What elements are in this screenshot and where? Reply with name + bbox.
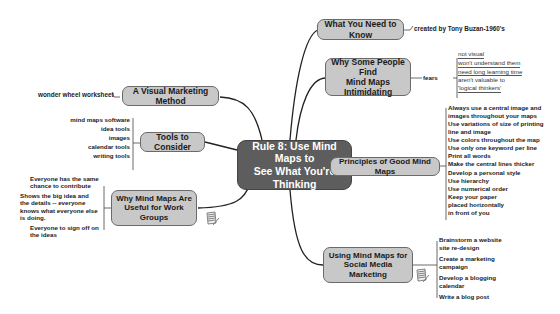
note-icon[interactable] (415, 268, 431, 284)
node-label: Principles of Good Mind Maps (331, 157, 439, 176)
leaf-calendar-tools[interactable]: calendar tools (60, 143, 130, 152)
node-label-line1: Why Some People Find (326, 57, 410, 77)
leaf-principle-1a[interactable]: Always use a central image and (448, 104, 544, 112)
leaf-sign-off-a[interactable]: Everyone to sign off on (20, 224, 99, 231)
leaf-long-learning[interactable]: need long learning time (458, 68, 522, 77)
node-label: What You Need to Know (318, 19, 403, 39)
node-label-line2: Mind Maps Intimidating (326, 77, 410, 97)
leaf-brainstorm-a[interactable]: Brainstorm a website (439, 236, 502, 244)
leaf-same-chance-b[interactable]: chance to contribute (20, 182, 99, 189)
leaf-principle-7[interactable]: Develop a personal style (448, 169, 544, 177)
note-icon[interactable] (205, 211, 221, 227)
leaf-idea-tools[interactable]: idea tools (60, 125, 130, 134)
node-why-some-people-find[interactable]: Why Some People Find Mind Maps Intimidat… (325, 58, 411, 96)
leaf-big-idea-d[interactable]: is doing. (20, 214, 99, 221)
leaf-principle-10[interactable]: Keep your paper (448, 193, 544, 201)
leaf-blogging-b[interactable]: calendar (439, 282, 502, 290)
node-label-line1: Using Mind Maps for (329, 251, 408, 261)
leaf-principle-8[interactable]: Use hierarchy (448, 177, 544, 185)
tools-leaves: mind maps software idea tools images cal… (60, 116, 130, 161)
node-social-media-marketing[interactable]: Using Mind Maps for Social Media Marketi… (323, 247, 413, 283)
node-label-line1: Why Mind Maps Are (116, 194, 192, 204)
leaf-brainstorm-b[interactable]: site re-design (439, 244, 502, 252)
leaf-principle-5[interactable]: Print all words (448, 152, 544, 160)
leaf-arent-valuable[interactable]: aren't valuable to (458, 76, 522, 84)
leaf-principle-4[interactable]: Use only one keyword per line (448, 144, 544, 152)
node-visual-marketing-method[interactable]: A Visual Marketing Method (122, 86, 219, 106)
leaf-not-visual[interactable]: not visual (458, 50, 484, 59)
leaf-principle-3[interactable]: Use colors throughout the map (448, 136, 544, 144)
leaf-principle-2b[interactable]: line and image (448, 128, 544, 136)
leaf-principle-9[interactable]: Use numerical order (448, 185, 544, 193)
leaf-principle-6[interactable]: Make the central lines thicker (448, 160, 544, 168)
connector-fears[interactable]: fears (423, 74, 438, 82)
node-work-groups[interactable]: Why Mind Maps Are Useful for Work Groups (111, 190, 197, 226)
node-what-you-need-to-know[interactable]: What You Need to Know (317, 19, 404, 40)
leaf-campaign-a[interactable]: Create a marketing (439, 255, 502, 263)
leaf-sign-off-b[interactable]: the ideas (20, 231, 99, 238)
leaf-wonder-wheel[interactable]: wonder wheel worksheet (38, 91, 114, 99)
leaf-images[interactable]: images (60, 134, 130, 143)
leaf-big-idea-c[interactable]: knows what everyone else (20, 207, 99, 214)
leaf-principle-11[interactable]: placed horizontally (448, 201, 544, 209)
leaf-big-idea-a[interactable]: Shows the big idea and (20, 192, 99, 199)
leaf-blog-post[interactable]: Write a blog post (439, 293, 502, 301)
leaf-blogging-a[interactable]: Develop a blogging (439, 274, 502, 282)
leaf-created-by[interactable]: created by Tony Buzan-1960's (414, 25, 505, 33)
leaf-mind-maps-software[interactable]: mind maps software (60, 116, 130, 125)
social-media-leaves: Brainstorm a website site re-design Crea… (439, 236, 502, 301)
node-label: A Visual Marketing Method (123, 86, 218, 106)
leaf-logical-thinkers[interactable]: 'logical thinkers' (458, 84, 501, 93)
leaf-campaign-b[interactable]: campaign (439, 263, 502, 271)
leaf-big-idea-b[interactable]: the details -- everyone (20, 199, 99, 206)
principles-leaves: Always use a central image and images th… (448, 104, 544, 217)
node-principles[interactable]: Principles of Good Mind Maps (330, 157, 440, 176)
work-groups-leaves: Everyone has the same chance to contribu… (20, 175, 99, 239)
leaf-principle-1b[interactable]: images throughout your maps (448, 112, 544, 120)
node-label: Tools to Consider (141, 132, 204, 152)
node-label-line2: Social Media Marketing (324, 260, 412, 279)
fears-leaves: not visual won't understand them need lo… (458, 50, 522, 93)
node-tools-to-consider[interactable]: Tools to Consider (140, 132, 205, 152)
leaf-writing-tools[interactable]: writing tools (60, 152, 130, 161)
leaf-principle-2a[interactable]: Use variations of size of printing (448, 120, 544, 128)
node-label-line2: Useful for Work Groups (112, 203, 196, 222)
leaf-principle-12[interactable]: in front of you (448, 209, 544, 217)
leaf-same-chance-a[interactable]: Everyone has the same (20, 175, 99, 182)
leaf-wont-understand[interactable]: won't understand them (458, 59, 520, 68)
